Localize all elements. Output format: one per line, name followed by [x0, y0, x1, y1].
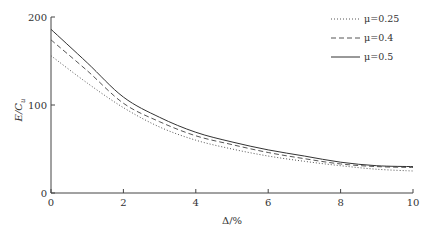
x-ticks: 0246810 [48, 189, 420, 208]
series-line-solid [51, 29, 413, 166]
x-tick-label: 10 [407, 197, 420, 208]
y-tick-label: 0 [41, 188, 47, 199]
x-tick-label: 4 [193, 197, 199, 208]
svg-text:E/Cu: E/Cu [13, 98, 27, 122]
axes [51, 17, 413, 193]
series-line-dashed [51, 40, 413, 168]
x-tick-label: 0 [48, 197, 54, 208]
y-tick-label: 200 [28, 12, 47, 23]
y-title-sub: u [19, 98, 27, 103]
line-chart: 0100200 0246810 Δ/% E/Cu μ=0.25 μ=0.4 μ=… [0, 0, 426, 237]
x-axis-title: Δ/% [222, 215, 242, 226]
x-tick-label: 6 [265, 197, 271, 208]
y-tick-label: 100 [28, 100, 47, 111]
series-line-dotted [51, 56, 413, 171]
legend-label-1: μ=0.4 [364, 32, 393, 43]
series-lines [51, 29, 413, 171]
y-axis-title: E/Cu [13, 98, 27, 122]
x-tick-label: 8 [337, 197, 343, 208]
legend: μ=0.25 μ=0.4 μ=0.5 [331, 13, 399, 62]
x-tick-label: 2 [120, 197, 126, 208]
legend-label-0: μ=0.25 [364, 13, 399, 24]
legend-label-2: μ=0.5 [364, 51, 393, 62]
